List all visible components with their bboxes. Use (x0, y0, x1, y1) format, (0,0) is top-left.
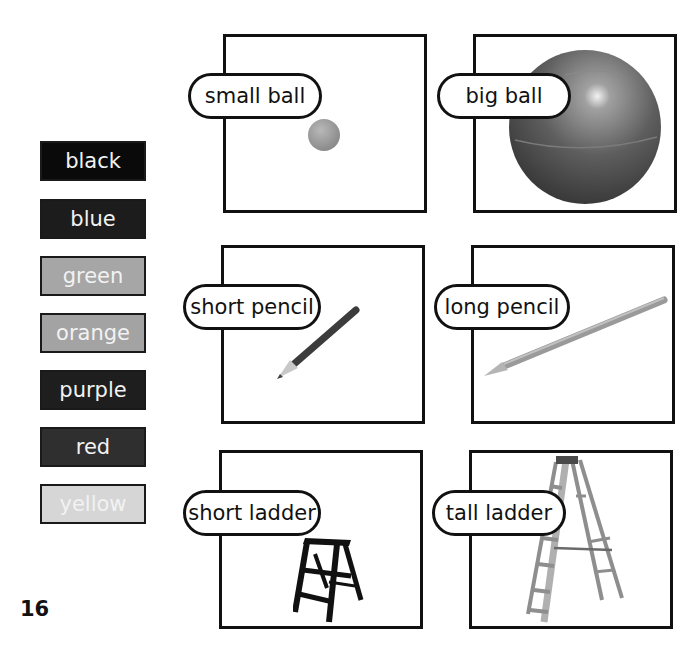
small-ball-picture (306, 117, 342, 153)
color-swatch-black: black (40, 141, 146, 181)
label-big-ball: big ball (437, 73, 571, 119)
label-tall-ladder: tall ladder (432, 490, 566, 536)
color-swatch-blue: blue (40, 199, 146, 239)
color-swatch-green: green (40, 256, 146, 296)
color-swatch-red: red (40, 427, 146, 467)
label-short-pencil: short pencil (183, 284, 321, 330)
color-swatch-yellow: yellow (40, 484, 146, 524)
tall-ladder-picture (526, 456, 644, 626)
label-long-pencil: long pencil (434, 284, 570, 330)
short-ladder-picture (293, 536, 367, 624)
label-short-ladder: short ladder (183, 490, 321, 536)
big-ball-picture (505, 45, 665, 205)
page-number: 16 (20, 597, 49, 621)
label-small-ball: small ball (188, 73, 322, 119)
color-swatch-orange: orange (40, 313, 146, 353)
color-swatch-purple: purple (40, 370, 146, 410)
